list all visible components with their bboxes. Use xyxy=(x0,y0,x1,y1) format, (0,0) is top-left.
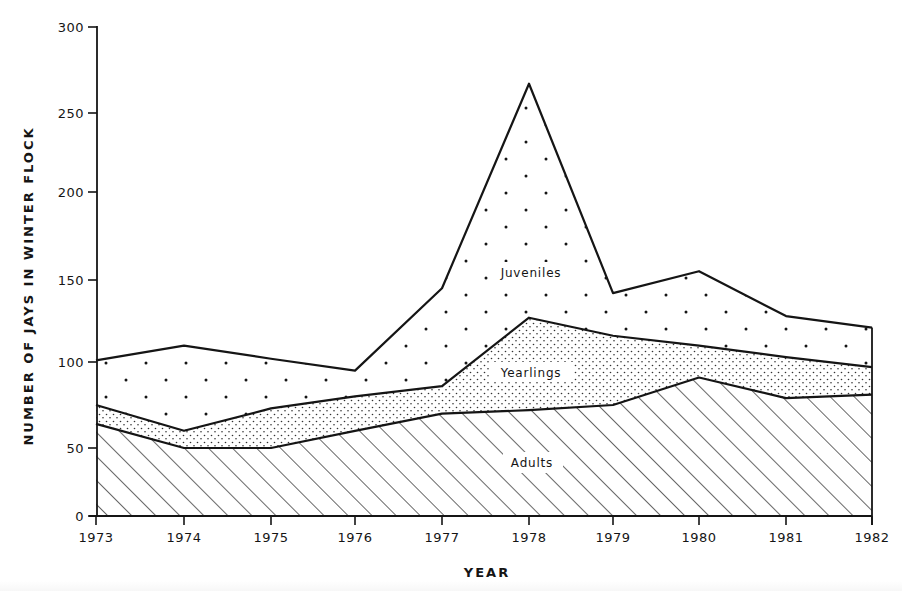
x-tick-label: 1974 xyxy=(166,530,201,545)
y-axis-title: NUMBER OF JAYS IN WINTER FLOCK xyxy=(21,126,36,445)
yearlings-label-group: Yearlings xyxy=(490,362,574,382)
adults-label-group: Adults xyxy=(503,452,563,473)
x-axis-ticks: 1973197419751976197719781979198019811982 xyxy=(78,516,889,545)
stacked-area-chart: 050100150200250300 197319741975197619771… xyxy=(0,0,902,591)
adults-label: Adults xyxy=(511,456,553,470)
x-tick-label: 1981 xyxy=(768,530,803,545)
y-tick-label: 0 xyxy=(75,509,84,524)
x-tick-label: 1977 xyxy=(424,530,459,545)
x-tick-label: 1979 xyxy=(595,530,630,545)
x-tick-label: 1980 xyxy=(681,530,716,545)
y-tick-label: 200 xyxy=(58,185,84,200)
y-tick-label: 150 xyxy=(58,273,84,288)
juveniles-label: Juveniles xyxy=(500,266,562,280)
y-tick-label: 250 xyxy=(58,106,84,121)
y-tick-label: 300 xyxy=(58,20,84,35)
y-tick-label: 50 xyxy=(66,441,84,456)
x-tick-label: 1976 xyxy=(337,530,372,545)
x-tick-label: 1973 xyxy=(78,530,113,545)
juveniles-label-group: Juveniles xyxy=(490,262,572,282)
yearlings-label: Yearlings xyxy=(500,366,562,380)
cropped-caption xyxy=(0,581,902,591)
x-axis-title: YEAR xyxy=(463,565,510,580)
x-tick-label: 1978 xyxy=(511,530,546,545)
y-axis-ticks: 050100150200250300 xyxy=(58,20,97,524)
x-tick-label: 1982 xyxy=(854,530,889,545)
x-tick-label: 1975 xyxy=(253,530,288,545)
y-tick-label: 100 xyxy=(58,355,84,370)
